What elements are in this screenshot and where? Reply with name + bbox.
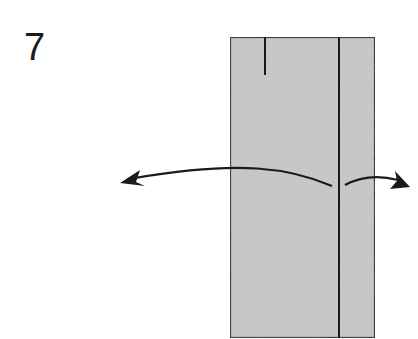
- origami-diagram: [0, 0, 418, 339]
- paper-sheet: [230, 37, 375, 338]
